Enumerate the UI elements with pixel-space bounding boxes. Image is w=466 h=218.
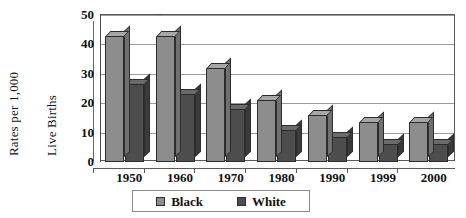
bar-black-1960[interactable] bbox=[156, 36, 175, 162]
legend-label: White bbox=[252, 195, 286, 208]
bar-group bbox=[201, 14, 252, 162]
bar-face bbox=[257, 100, 276, 162]
bar-black-1950[interactable] bbox=[105, 36, 124, 162]
bar-group bbox=[404, 14, 455, 162]
bar-chart: Rates per 1,000 Live Births 01020304050 … bbox=[0, 0, 466, 218]
x-tick-mark bbox=[93, 168, 94, 173]
y-axis-title-line-1: Rates per 1,000 bbox=[6, 34, 22, 156]
bar-side bbox=[124, 25, 130, 157]
y-tick-label: 0 bbox=[68, 155, 94, 168]
bar-side bbox=[225, 58, 231, 157]
bar-group bbox=[151, 14, 202, 162]
x-tick-mark bbox=[397, 168, 398, 173]
y-axis-ticks: 01020304050 bbox=[62, 0, 94, 218]
y-tick-label: 40 bbox=[68, 37, 94, 50]
bar-face bbox=[359, 122, 378, 162]
bar-series-container bbox=[100, 14, 455, 162]
x-tick-label: 2000 bbox=[404, 170, 464, 186]
bar-group bbox=[100, 14, 151, 162]
plot-floor-edge bbox=[93, 168, 455, 169]
bar-black-1970[interactable] bbox=[206, 68, 225, 162]
x-tick-mark bbox=[144, 168, 145, 173]
x-tick-mark bbox=[194, 168, 195, 173]
x-axis-ticks: 1950196019701980199019992000 bbox=[100, 170, 462, 188]
y-axis-title-line-2: Live Births bbox=[44, 56, 60, 156]
bar-face bbox=[156, 36, 175, 162]
bar-group bbox=[252, 14, 303, 162]
x-tick-mark bbox=[347, 168, 348, 173]
bar-face bbox=[206, 68, 225, 162]
bar-side bbox=[276, 90, 282, 157]
bar-side bbox=[175, 25, 181, 157]
y-tick-label: 30 bbox=[68, 67, 94, 80]
x-tick-mark bbox=[296, 168, 297, 173]
legend-label: Black bbox=[171, 195, 203, 208]
y-tick-label: 50 bbox=[68, 8, 94, 21]
bar-side bbox=[448, 134, 454, 157]
bar-face bbox=[409, 122, 428, 162]
legend-item-black[interactable]: Black bbox=[156, 195, 203, 208]
y-tick-label: 20 bbox=[68, 96, 94, 109]
bar-side bbox=[398, 134, 404, 157]
legend-swatch-icon bbox=[237, 197, 246, 206]
bar-face bbox=[105, 36, 124, 162]
bar-black-2000[interactable] bbox=[409, 122, 428, 162]
y-tick-label: 10 bbox=[68, 126, 94, 139]
bar-side bbox=[195, 84, 201, 157]
plot-floor bbox=[93, 161, 455, 168]
bar-side bbox=[144, 74, 150, 157]
legend: BlackWhite bbox=[132, 190, 310, 212]
legend-item-white[interactable]: White bbox=[237, 195, 286, 208]
x-tick-mark bbox=[245, 168, 246, 173]
bar-group bbox=[303, 14, 354, 162]
bar-group bbox=[354, 14, 405, 162]
bar-black-1999[interactable] bbox=[359, 122, 378, 162]
bar-face bbox=[308, 115, 327, 162]
bar-black-1980[interactable] bbox=[257, 100, 276, 162]
legend-swatch-icon bbox=[156, 197, 165, 206]
bar-black-1990[interactable] bbox=[308, 115, 327, 162]
